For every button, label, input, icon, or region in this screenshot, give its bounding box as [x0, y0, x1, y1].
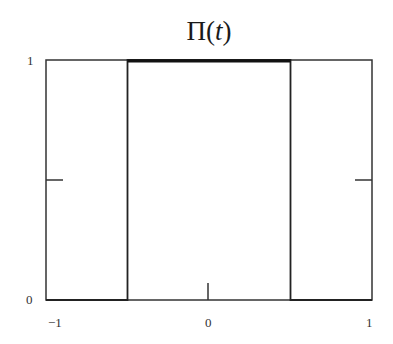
y-tick-label-0: 0	[26, 292, 33, 308]
pulse-series-line	[46, 60, 372, 300]
y-tick-label-1: 1	[27, 53, 34, 69]
x-tick-label-1: 1	[366, 315, 373, 331]
x-tick-label-0: 0	[205, 315, 212, 331]
x-tick-label-neg1: −1	[48, 315, 62, 331]
axes-frame	[46, 60, 372, 300]
plot-area	[0, 0, 393, 344]
